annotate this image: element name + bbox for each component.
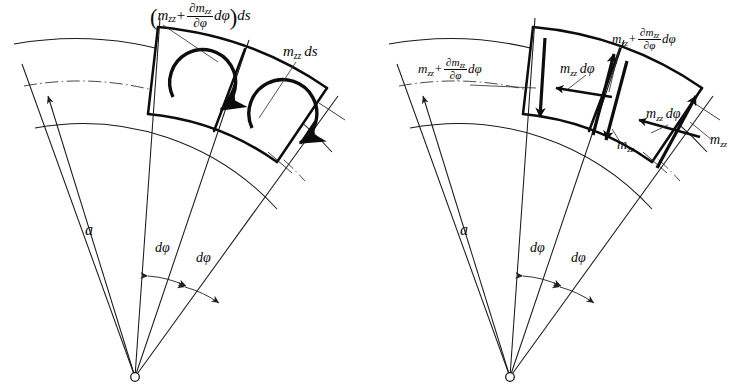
right-left-edge-moment-label: mzz+∂mzz∂φdφ (418, 57, 482, 82)
left-ray-left-outer (22, 64, 135, 377)
left-apex-point (131, 373, 140, 382)
right-ray-1 (510, 18, 535, 377)
right-top-right-moment-label: mzz+∂mzz∂φdφ (612, 27, 676, 52)
left-inner-moment-label: mzz ds (283, 44, 318, 61)
right-angle-label-2: dφ (571, 251, 586, 265)
right-ray-left-outer (397, 64, 510, 377)
right-angle-label-1: dφ (530, 241, 545, 255)
right-tangential-force-label-1: mzz dφ (560, 62, 594, 78)
right-tangential-force-label-2: mzz dφ (646, 107, 680, 123)
right-radius-label: a (460, 222, 468, 238)
figure-root: (mzz+∂mzz∂φdφ)ds mzz ds a dφ dφ mzz+∂mzz… (0, 0, 750, 388)
left-outer-moment-label: (mzz+∂mzz∂φdφ)ds (150, 2, 251, 30)
right-apex-point (506, 373, 515, 382)
left-radius-label: a (85, 222, 93, 238)
left-angle-label-1: dφ (155, 241, 170, 255)
right-edge-force-label-1: mzz (617, 138, 634, 154)
left-ray-1 (135, 18, 160, 377)
right-edge-force-label-2: mzz (710, 133, 727, 149)
left-angle-label-2: dφ (196, 251, 211, 265)
diagram-canvas (0, 0, 750, 388)
left-panel-geometry (14, 18, 345, 381)
